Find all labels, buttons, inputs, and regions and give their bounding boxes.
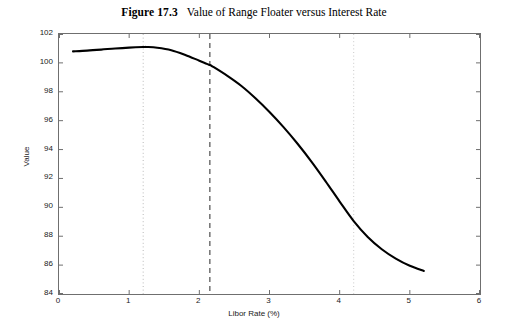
y-tick-label: 102 xyxy=(27,28,53,37)
x-tick-label: 0 xyxy=(45,296,71,305)
x-tick-label: 5 xyxy=(396,296,422,305)
y-tick-label: 92 xyxy=(27,172,53,181)
y-tick-label: 94 xyxy=(27,144,53,153)
y-tick-label: 88 xyxy=(27,230,53,239)
figure-title: Value of Range Floater versus Interest R… xyxy=(187,6,387,18)
y-tick-label: 98 xyxy=(27,86,53,95)
y-tick-label: 90 xyxy=(27,201,53,210)
figure-caption: Figure 17.3Value of Range Floater versus… xyxy=(0,5,508,19)
x-tick-label: 6 xyxy=(466,296,492,305)
vertical-marker-group xyxy=(143,34,354,294)
x-tick-label: 4 xyxy=(326,296,352,305)
plot-canvas xyxy=(59,34,480,294)
data-series-line xyxy=(73,47,424,271)
y-axis-title: Value xyxy=(22,127,31,187)
y-tick-label: 100 xyxy=(27,57,53,66)
y-tick-label: 96 xyxy=(27,115,53,124)
plot-area xyxy=(58,33,481,295)
figure-container: Figure 17.3Value of Range Floater versus… xyxy=(0,0,508,327)
axis-tick-group xyxy=(59,34,480,294)
x-axis-title: Libor Rate (%) xyxy=(0,309,508,318)
figure-number: Figure 17.3 xyxy=(121,6,177,18)
x-tick-label: 3 xyxy=(256,296,282,305)
x-tick-label: 2 xyxy=(185,296,211,305)
y-tick-label: 86 xyxy=(27,259,53,268)
x-tick-label: 1 xyxy=(115,296,141,305)
